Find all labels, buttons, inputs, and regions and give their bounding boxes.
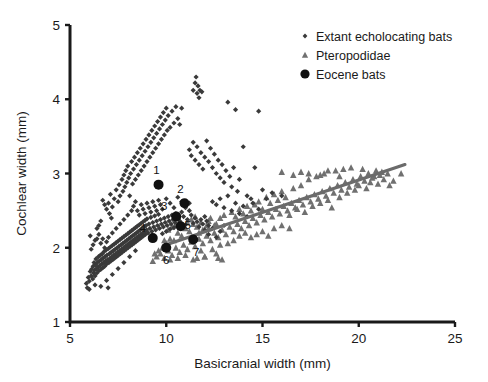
eocene-point-label: 6 — [163, 254, 169, 266]
extant-echolocating-point — [132, 155, 137, 160]
extant-echolocating-point — [136, 172, 141, 177]
extant-echolocating-point — [107, 211, 112, 216]
extant-echolocating-point — [212, 152, 217, 157]
extant-echolocating-point — [142, 211, 147, 216]
extant-echolocating-point — [160, 122, 165, 127]
pteropodidae-point — [298, 169, 304, 175]
pteropodidae-point — [202, 253, 208, 259]
extant-echolocating-point — [96, 232, 101, 237]
pteropodidae-point — [275, 197, 281, 203]
extant-echolocating-point — [169, 109, 174, 114]
extant-echolocating-point — [264, 196, 269, 201]
extant-echolocating-point — [218, 175, 223, 180]
extant-echolocating-point — [117, 221, 122, 226]
pteropodidae-point — [217, 241, 223, 247]
extant-echolocating-point — [133, 177, 138, 182]
extant-echolocating-points — [84, 74, 285, 292]
scatter-chart: 12345510152025Basicranial width (mm)Coch… — [0, 0, 488, 382]
extant-echolocating-point — [214, 171, 219, 176]
legend-label: Extant echolocating bats — [316, 30, 452, 44]
extant-echolocating-point — [98, 241, 103, 246]
extant-echolocating-point — [121, 217, 126, 222]
extant-echolocating-point — [159, 137, 164, 142]
pteropodidae-point — [182, 252, 188, 258]
extant-echolocating-point — [144, 201, 149, 206]
pteropodidae-point — [375, 180, 381, 186]
pteropodidae-point — [325, 167, 331, 173]
extant-echolocating-point — [104, 239, 109, 244]
extant-echolocating-point — [147, 155, 152, 160]
pteropodidae-point — [230, 237, 236, 243]
extant-echolocating-point — [193, 74, 198, 79]
extant-echolocating-point — [225, 100, 230, 105]
pteropodidae-point — [209, 246, 215, 252]
figure-container: 12345510152025Basicranial width (mm)Coch… — [0, 0, 488, 382]
extant-echolocating-point — [98, 284, 103, 289]
extant-echolocating-point — [227, 174, 232, 179]
extant-echolocating-point — [131, 166, 136, 171]
extant-echolocating-point — [146, 132, 151, 137]
extant-echolocating-point — [148, 210, 153, 215]
extant-echolocating-point — [208, 146, 213, 151]
extant-echolocating-point — [119, 177, 124, 182]
pteropodidae-point — [221, 212, 227, 218]
extant-echolocating-point — [175, 195, 180, 200]
extant-echolocating-point — [177, 122, 182, 127]
extant-echolocating-point — [126, 175, 131, 180]
extant-echolocating-point — [150, 199, 155, 204]
extant-echolocating-point — [158, 114, 163, 119]
extant-echolocating-point — [233, 107, 238, 112]
pteropodidae-point — [390, 178, 396, 184]
pteropodidae-point — [255, 198, 261, 204]
extant-echolocating-point — [260, 187, 265, 192]
extant-echolocating-point — [139, 202, 144, 207]
extant-echolocating-point — [138, 146, 143, 151]
eocene-point-label: 3 — [161, 200, 167, 212]
y-tick-label: 1 — [52, 315, 60, 330]
extant-echolocating-point — [142, 149, 147, 154]
extant-echolocating-point — [175, 116, 180, 121]
extant-echolocating-point — [106, 285, 111, 290]
pteropodidae-point — [298, 182, 304, 188]
extant-echolocating-point — [221, 180, 226, 185]
extant-echolocating-point — [202, 155, 207, 160]
pteropodidae-point — [265, 232, 271, 238]
y-tick-label: 4 — [52, 92, 60, 107]
extant-echolocating-point — [128, 171, 133, 176]
extant-echolocating-point — [112, 196, 117, 201]
pteropodidae-point — [267, 200, 273, 206]
extant-echolocating-point — [133, 248, 138, 253]
extant-echolocating-point — [162, 132, 167, 137]
extant-echolocating-point — [106, 235, 111, 240]
extant-echolocating-point — [187, 208, 192, 213]
extant-echolocating-point — [233, 201, 238, 206]
pteropodidae-point — [180, 241, 186, 247]
pteropodidae-point — [279, 169, 285, 175]
eocene-point — [188, 235, 198, 245]
extant-echolocating-point — [104, 278, 109, 283]
extant-echolocating-point — [216, 158, 221, 163]
extant-echolocating-point — [116, 182, 121, 187]
extant-echolocating-point — [256, 109, 261, 114]
pteropodidae-point — [279, 222, 285, 228]
extant-echolocating-point — [149, 128, 154, 133]
extant-echolocating-point — [98, 218, 103, 223]
extant-echolocating-point — [89, 247, 94, 252]
extant-echolocating-point — [252, 165, 257, 170]
pteropodidae-point — [248, 234, 254, 240]
extant-echolocating-point — [191, 88, 196, 93]
extant-echolocating-point — [110, 230, 115, 235]
pteropodidae-point — [305, 176, 311, 182]
extant-echolocating-point — [171, 120, 176, 125]
extant-echolocating-point — [92, 282, 97, 287]
extant-echolocating-point — [153, 146, 158, 151]
extant-echolocating-point — [133, 199, 138, 204]
extant-echolocating-point — [109, 215, 114, 220]
extant-echolocating-point — [189, 212, 194, 217]
extant-echolocating-point — [210, 199, 215, 204]
extant-echolocating-point — [145, 144, 150, 149]
extant-echolocating-point — [129, 159, 134, 164]
extant-echolocating-point — [137, 158, 142, 163]
pteropodidae-point — [175, 255, 181, 261]
pteropodidae-point — [161, 237, 167, 243]
